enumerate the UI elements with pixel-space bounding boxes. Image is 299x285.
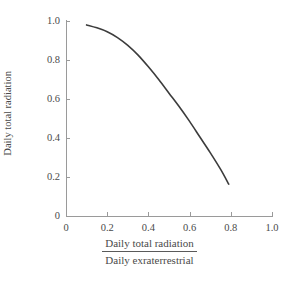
x-tick-label-1_0: 1.0 <box>257 223 287 234</box>
x-tick-label-0_4: 0.4 <box>133 223 163 234</box>
x-axis-label: Daily total radiation Daily exraterrestr… <box>0 237 299 267</box>
x-tick-label-0_6: 0.6 <box>175 223 205 234</box>
y-tick-label-0_2: 0.2 <box>18 172 60 183</box>
data-series <box>87 25 229 184</box>
y-tick-label-0: 0 <box>18 211 60 222</box>
y-tick-label-0_8: 0.8 <box>18 55 60 66</box>
y-axis-label: Daily total diffuse Daily total radiatio… <box>0 43 14 183</box>
y-axis-label-denominator: Daily total radiation <box>1 68 14 159</box>
x-tick-label-0: 0 <box>51 223 81 234</box>
y-tick-label-0_4: 0.4 <box>18 133 60 144</box>
x-axis-label-fraction: Daily total radiation Daily exraterrestr… <box>102 237 197 267</box>
chart-figure: 0 0.2 0.4 0.6 0.8 1.0 0 0.2 0.4 0.6 0.8 … <box>0 0 299 285</box>
x-axis-label-numerator: Daily total radiation <box>102 237 197 251</box>
y-tick-label-1_0: 1.0 <box>18 16 60 27</box>
y-axis-label-fraction: Daily total diffuse Daily total radiatio… <box>0 68 14 159</box>
x-tick-label-0_2: 0.2 <box>92 223 122 234</box>
axis-ticks <box>66 22 273 217</box>
x-axis-label-fraction-bar <box>102 251 197 252</box>
y-tick-label-0_6: 0.6 <box>18 94 60 105</box>
axes <box>66 20 273 216</box>
x-tick-label-0_8: 0.8 <box>216 223 246 234</box>
x-axis-label-denominator: Daily exraterrestrial <box>102 253 197 267</box>
